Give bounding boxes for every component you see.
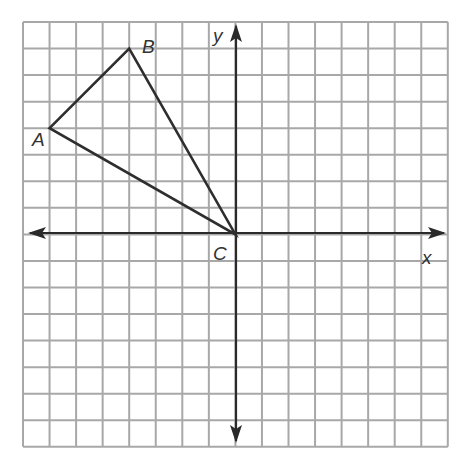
x-axis-label: x [421,247,433,268]
y-axis-label: y [211,25,224,46]
triangle-abc [50,49,236,235]
coordinate-plane: x y A B C [0,0,472,468]
vertex-label-a: A [31,129,45,150]
vertex-label-b: B [142,36,155,57]
vertex-label-c: C [213,243,227,264]
